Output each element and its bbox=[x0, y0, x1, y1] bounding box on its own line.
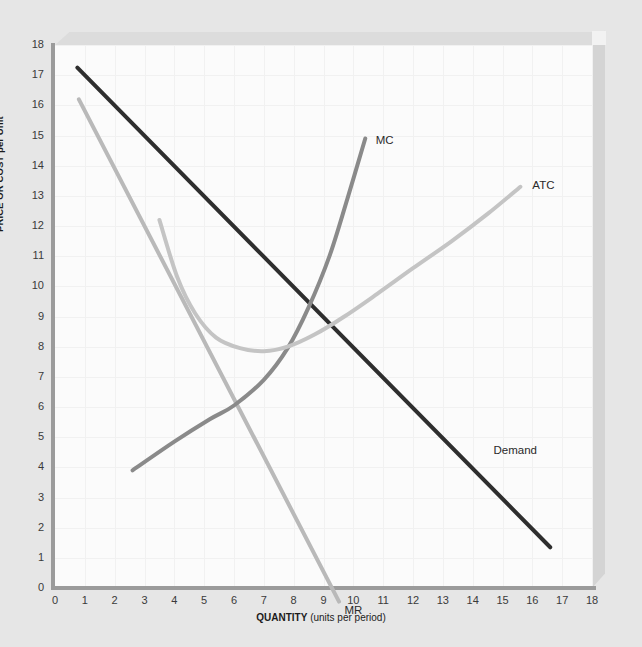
curve-label-atc: ATC bbox=[532, 179, 554, 191]
chart-curves bbox=[0, 0, 642, 647]
chart-figure: 0123456789101112131415161718 01234567891… bbox=[0, 0, 642, 647]
curve-demand bbox=[77, 68, 550, 548]
y-axis-title: PRICE OR COST per Unit bbox=[0, 116, 5, 232]
curve-mr bbox=[79, 99, 339, 601]
curve-label-demand: Demand bbox=[494, 444, 537, 456]
x-axis-title-rest: (units per period) bbox=[307, 612, 385, 623]
curve-mc bbox=[133, 139, 366, 471]
x-axis-title: QUANTITY (units per period) bbox=[0, 612, 642, 623]
curve-label-mc: MC bbox=[376, 134, 394, 146]
curve-atc bbox=[159, 187, 520, 351]
x-axis-title-bold: QUANTITY bbox=[256, 612, 307, 623]
